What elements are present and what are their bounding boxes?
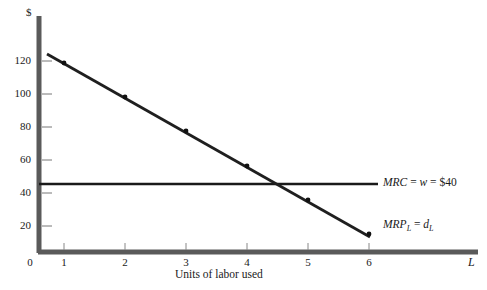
- x-tick-label-2: 2: [114, 256, 136, 268]
- y-axis-unit-label: $: [26, 6, 32, 18]
- x-tick-label-1: 1: [53, 256, 75, 268]
- y-tick-label-100: 100: [5, 87, 31, 99]
- mrp-label-text: MRP: [383, 218, 407, 230]
- economics-chart-figure: $ 120 100 80 60 40 20 0 1 2 3 4 5 6 L Un…: [0, 0, 487, 290]
- mrc-label-value: $40: [439, 176, 456, 188]
- x-tick-label-5: 5: [297, 256, 319, 268]
- chart-plot-area: [0, 0, 487, 290]
- x-tick-label-0: 0: [19, 256, 41, 268]
- x-axis-end-symbol: L: [468, 255, 475, 270]
- x-axis-title: Units of labor used: [175, 268, 263, 280]
- x-tick-label-4: 4: [236, 256, 258, 268]
- y-tick-label-40: 40: [5, 186, 31, 198]
- mrp-label-sub2: L: [429, 224, 433, 233]
- y-tick-label-60: 60: [5, 153, 31, 165]
- x-tick-marks: [64, 243, 369, 250]
- mrc-curve-label: MRC = w = $40: [383, 176, 457, 188]
- mrp-labor-demand-line: [47, 54, 370, 237]
- y-tick-label-20: 20: [5, 219, 31, 231]
- y-tick-label-80: 80: [5, 120, 31, 132]
- mrp-label-eq: =: [411, 218, 423, 230]
- y-tick-label-120: 120: [5, 54, 31, 66]
- mrc-label-eq: =: [407, 176, 419, 188]
- x-tick-label-6: 6: [358, 256, 380, 268]
- mrp-curve-label: MRPL = dL: [383, 218, 434, 233]
- y-tick-marks: [42, 61, 52, 226]
- mrc-label-text: MRC: [383, 176, 407, 188]
- x-tick-label-3: 3: [175, 256, 197, 268]
- mrc-label-eq2: =: [427, 176, 439, 188]
